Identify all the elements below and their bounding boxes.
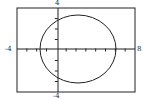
y-axis-ticks <box>55 19 58 82</box>
x-max-label: 8 <box>137 46 141 53</box>
plot-canvas <box>0 0 143 100</box>
y-max-label: 4 <box>55 0 59 7</box>
x-min-label: -4 <box>5 46 12 53</box>
y-min-label: -4 <box>53 93 60 100</box>
